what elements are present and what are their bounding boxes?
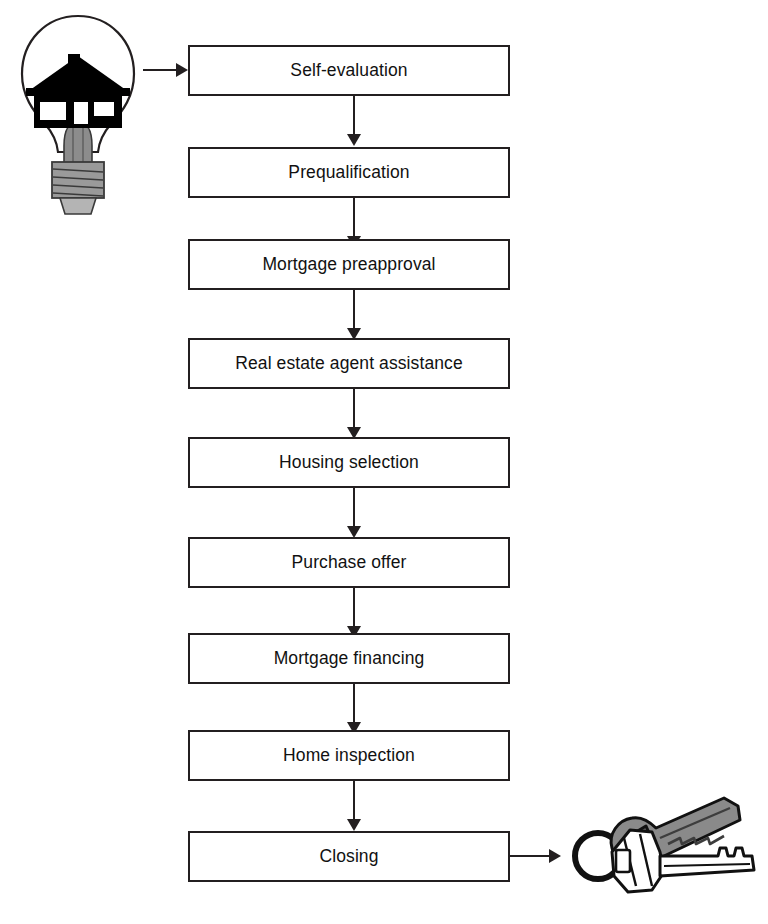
house-keys-icon	[568, 786, 764, 916]
arrow-housing-selection-to-purchase-offer	[347, 488, 361, 539]
flow-step-mortgage-preapproval[interactable]: Mortgage preapproval	[188, 239, 510, 290]
arrow-purchase-offer-to-mortgage-financing	[347, 588, 361, 639]
flow-step-self-evaluation[interactable]: Self-evaluation	[188, 45, 510, 96]
arrow-closing-to-keys	[510, 849, 562, 863]
flow-step-housing-selection[interactable]: Housing selection	[188, 437, 510, 488]
flow-step-label: Prequalification	[288, 164, 409, 182]
flow-step-label: Purchase offer	[292, 554, 407, 572]
flow-step-label: Mortgage financing	[274, 650, 425, 668]
flow-step-mortgage-financing[interactable]: Mortgage financing	[188, 633, 510, 684]
arrow-self-evaluation-to-prequalification	[347, 96, 361, 147]
arrow-mortgage-preapproval-to-real-estate-agent-assistance	[347, 290, 361, 341]
arrow-home-inspection-to-closing	[347, 781, 361, 832]
flow-step-home-inspection[interactable]: Home inspection	[188, 730, 510, 781]
arrow-mortgage-financing-to-home-inspection	[347, 684, 361, 735]
flow-step-label: Real estate agent assistance	[235, 355, 463, 373]
flow-step-purchase-offer[interactable]: Purchase offer	[188, 537, 510, 588]
flowchart-canvas: Self-evaluation Prequalification Mortgag…	[0, 0, 768, 924]
flow-step-label: Self-evaluation	[290, 62, 407, 80]
arrow-lightbulb-to-self-evaluation	[143, 63, 188, 77]
flow-step-label: Housing selection	[279, 454, 419, 472]
flow-step-real-estate-agent-assistance[interactable]: Real estate agent assistance	[188, 338, 510, 389]
arrow-real-estate-agent-assistance-to-housing-selection	[347, 389, 361, 440]
flow-step-prequalification[interactable]: Prequalification	[188, 147, 510, 198]
flow-step-label: Home inspection	[283, 747, 415, 765]
flow-step-label: Closing	[319, 848, 378, 866]
lightbulb-with-house-icon	[8, 12, 148, 217]
flow-step-closing[interactable]: Closing	[188, 831, 510, 882]
flow-step-label: Mortgage preapproval	[262, 256, 435, 274]
